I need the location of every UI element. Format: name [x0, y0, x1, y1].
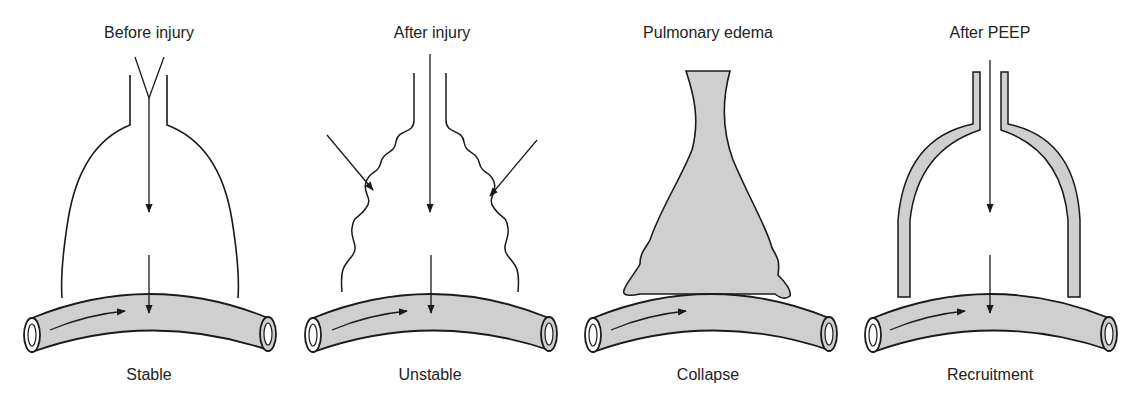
- pressure-arrow-left: [327, 135, 373, 190]
- panel-title-recruitment: After PEEP: [870, 24, 1110, 42]
- panel-title-unstable: After injury: [312, 24, 552, 42]
- panel-title-collapse: Pulmonary edema: [588, 24, 828, 42]
- alveolus-open: [62, 75, 239, 298]
- panel-caption-stable: Stable: [29, 366, 269, 384]
- airway-inflow-v: [135, 57, 164, 98]
- capillary-vessel: [585, 294, 837, 352]
- panel-unstable: [305, 54, 557, 352]
- figure-canvas: [0, 0, 1137, 411]
- alveolus-crenated: [341, 73, 414, 292]
- panel-caption-unstable: Unstable: [310, 366, 550, 384]
- alveolus-wall-right: [1001, 72, 1080, 297]
- capillary-vessel: [865, 294, 1117, 352]
- panel-collapse: [585, 71, 837, 352]
- alveolus-fluid-filled: [624, 71, 791, 298]
- panel-caption-collapse: Collapse: [588, 366, 828, 384]
- alveolus-wall-left: [898, 72, 980, 297]
- panel-caption-recruitment: Recruitment: [870, 366, 1110, 384]
- panel-recruitment: [865, 60, 1117, 352]
- pressure-arrow-right: [490, 140, 537, 196]
- panel-title-stable: Before injury: [29, 24, 269, 42]
- panel-stable: [24, 57, 276, 352]
- capillary-vessel: [24, 294, 276, 352]
